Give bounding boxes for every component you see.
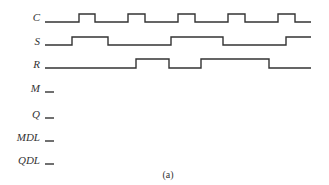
signal-label: R <box>32 58 40 70</box>
signal-label: Q <box>32 108 40 120</box>
signal-row-qdl: QDL <box>18 154 54 166</box>
signal-waveforms: CSRMQMDLQDL <box>16 11 311 166</box>
waveform-c <box>45 14 311 22</box>
timing-diagram: CSRMQMDLQDL (a) <box>0 0 329 185</box>
signal-label: C <box>33 11 41 23</box>
signal-row-s: S <box>35 35 312 47</box>
signal-row-r: R <box>32 58 311 70</box>
signal-row-m: M <box>30 82 54 94</box>
waveform-r <box>45 59 311 68</box>
figure-caption: (a) <box>162 169 173 181</box>
waveform-s <box>45 37 311 45</box>
signal-row-mdl: MDL <box>16 131 54 143</box>
signal-label: MDL <box>16 131 40 143</box>
signal-label: S <box>35 35 41 47</box>
signal-row-c: C <box>33 11 311 23</box>
signal-row-q: Q <box>32 108 54 120</box>
signal-label: QDL <box>18 154 40 166</box>
signal-label: M <box>30 82 41 94</box>
